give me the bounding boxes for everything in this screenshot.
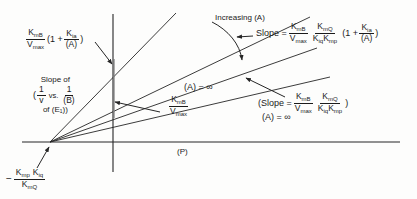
slope-top-right-expression: Slope = KmB Vmax KmQ KiqKmp (1 + Kia (A)…: [256, 22, 378, 45]
kia-over-a-fraction: Kia (A): [64, 29, 79, 51]
km-vmax-center-expression: KmB Vmax: [167, 95, 190, 118]
kmb-over-vmax-fraction-center: KmB Vmax: [168, 95, 189, 118]
slope-of-line2: ( 1 v vs. 1 (B): [33, 85, 78, 106]
pointer-slope-arrow: [237, 36, 253, 37]
pointer-increasing-a-arrow: [212, 22, 242, 60]
kmb-over-vmax-fraction-topright: KmB Vmax: [288, 22, 309, 45]
km-over-vmax-fraction: KmB Vmax: [25, 28, 46, 51]
slope-of-line1: Slope of: [33, 76, 78, 84]
figure-canvas: KmB Vmax (1 + Kia (A) ) Slope of ( 1 v v…: [0, 0, 417, 199]
slope-of-line3: of (E₁)): [33, 106, 78, 114]
open-paren-one-plus: (1 +: [47, 35, 63, 44]
x-axis-label: (P): [177, 148, 188, 156]
close-paren: ): [80, 35, 83, 44]
kmq-over-kiqkmp-fraction-right: KmQ KiqKmp: [316, 92, 344, 115]
vs-text: vs.: [49, 92, 59, 100]
kmb-over-vmax-fraction-right: KmB Vmax: [293, 92, 314, 115]
pointer-y-intercept-arrow: [95, 42, 112, 64]
a-equals-infinity-left: (A) = ∞: [184, 83, 213, 92]
close-paren-right: ): [345, 99, 348, 108]
one-over-v-fraction: 1 v: [37, 85, 46, 106]
kmp-kiq-over-kmq-fraction: KmpKiq KmQ: [14, 168, 45, 191]
kia-over-a-fraction-topright: Kia (A): [359, 23, 374, 45]
slope-equals-prefix-right: (Slope =: [258, 99, 292, 108]
close-paren-topright: ): [375, 29, 378, 38]
y-intercept-expression: KmB Vmax (1 + Kia (A) ): [24, 28, 83, 51]
leading-minus-sign: −: [6, 174, 12, 185]
slope-equals-prefix: Slope =: [256, 29, 287, 38]
a-equals-infinity-right: (A) = ∞: [262, 113, 291, 122]
slope-open-paren: (: [33, 91, 36, 100]
one-over-b-fraction: 1 (B): [61, 85, 76, 106]
slope-of-annotation: Slope of ( 1 v vs. 1 (B) of (E₁)): [33, 76, 78, 114]
kmq-over-kiqkmp-fraction-topright: KmQ KiqKmp: [311, 22, 339, 45]
convergence-point-label: − KmpKiq KmQ: [6, 168, 46, 191]
open-paren-one-plus-topright: (1 +: [342, 29, 358, 38]
pointer-km-vmax-arrow: [115, 102, 160, 112]
pointer-convergence-arrow: [37, 147, 49, 168]
